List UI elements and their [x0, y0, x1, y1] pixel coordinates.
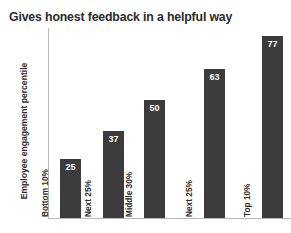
chart-title: Gives honest feedback in a helpful way — [9, 10, 232, 24]
bar-value-label: 25 — [60, 162, 81, 172]
bar[interactable]: 77 — [262, 36, 283, 218]
bar[interactable]: 63 — [204, 69, 225, 218]
bar-value-label: 50 — [144, 103, 165, 113]
y-axis-label: Employee engagement percentile — [19, 46, 29, 216]
category-label: Middle 30% — [124, 172, 134, 217]
bar-value-label: 63 — [204, 72, 225, 82]
bar-value-label: 77 — [262, 39, 283, 49]
bar-value-label: 37 — [103, 134, 124, 144]
x-axis-line — [48, 218, 291, 219]
bar[interactable]: 25 — [60, 159, 81, 218]
bar[interactable]: 37 — [103, 131, 124, 218]
bar-chart: Gives honest feedback in a helpful way E… — [0, 0, 291, 233]
category-label: Top 10% — [242, 184, 252, 218]
bar[interactable]: 50 — [144, 100, 165, 218]
category-label: Next 25% — [184, 180, 194, 217]
category-label: Bottom 10% — [40, 169, 50, 217]
category-label: Next 25% — [83, 180, 93, 217]
plot-area: 25 Bottom 10% 37 Next 25% 50 Middle 30% … — [48, 28, 283, 219]
